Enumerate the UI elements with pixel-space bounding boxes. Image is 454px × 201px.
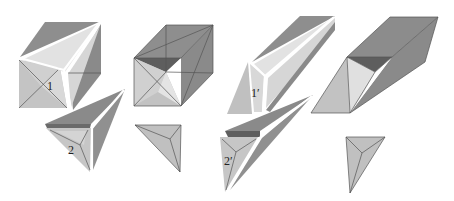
cube-corner-tetrahedron (135, 125, 181, 172)
label-piece-2: 2 (68, 143, 74, 157)
panel-parallelepiped-assembled (311, 17, 438, 193)
piece-1prime (227, 16, 335, 114)
label-piece-1: 1 (47, 79, 53, 93)
panel-cube-assembled (134, 25, 213, 172)
dissection-figure: 1 2 (0, 0, 454, 201)
label-piece-1prime: 1′ (251, 86, 260, 100)
parallelepiped-corner-tetrahedron (346, 137, 385, 193)
piece-1 (19, 22, 101, 110)
label-piece-2prime: 2′ (224, 154, 233, 168)
panel-cube-exploded: 1 2 (19, 22, 125, 172)
